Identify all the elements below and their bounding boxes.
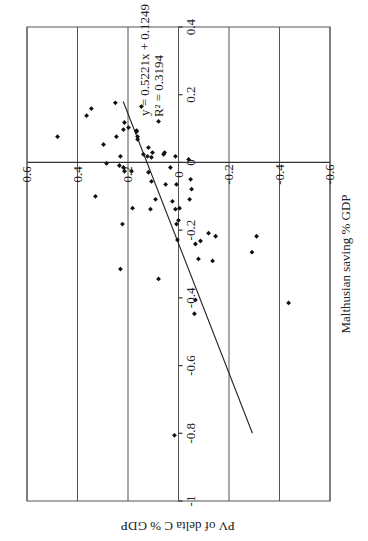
y-axis-title: PV of delta C % GDP — [121, 519, 235, 534]
data-point — [122, 120, 127, 125]
data-point — [156, 119, 161, 124]
x-tick-label-group: -0.4 — [183, 287, 198, 308]
data-point — [172, 433, 177, 438]
x-tick-label-group: 0.4 — [183, 18, 198, 35]
data-point — [126, 125, 131, 130]
trend-equation-group: y = 0.5221x + 0.1249 — [137, 4, 152, 116]
trendline — [123, 101, 252, 433]
data-point — [114, 134, 119, 139]
data-point — [250, 250, 255, 255]
y-tick-label-group: 0.6 — [19, 166, 34, 183]
trendline-path — [123, 101, 252, 433]
y-tick-label: 0 — [171, 171, 186, 178]
data-point — [120, 222, 125, 227]
y-tick-label: 0.2 — [120, 166, 135, 182]
data-point — [286, 301, 291, 306]
data-point — [104, 161, 109, 166]
x-tick-label: -0.6 — [183, 355, 198, 376]
x-tick-label: -0.2 — [183, 220, 198, 241]
r-squared-label: R² = 0.3194 — [151, 54, 166, 117]
y-tick-label-group: 0 — [171, 171, 186, 178]
data-point — [198, 239, 203, 244]
plot-grid — [27, 27, 330, 501]
data-point — [141, 152, 146, 157]
data-point — [149, 155, 154, 160]
y-tick-label-group: -0.4 — [272, 164, 287, 185]
y-tick-label: -0.6 — [322, 164, 337, 185]
data-point — [206, 231, 211, 236]
y-tick-label-group: 0.4 — [70, 166, 85, 183]
x-tick-label: -0.4 — [183, 287, 198, 308]
y-tick-label: -0.2 — [221, 164, 236, 185]
x-tick-label: 0.4 — [183, 18, 198, 35]
data-point — [193, 242, 198, 247]
data-point — [196, 257, 201, 262]
x-axis-title: Malthusian saving % GDP — [338, 194, 353, 333]
data-point — [168, 165, 173, 170]
x-tick-label-group: 0.2 — [183, 87, 198, 103]
y-axis-title-group: PV of delta C % GDP — [121, 519, 235, 534]
scatter-chart: 0.60.40.20-0.2-0.4-0.6-1-0.8-0.6-0.4-0.2… — [0, 0, 368, 541]
data-point — [89, 106, 94, 111]
data-point — [189, 187, 194, 192]
x-tick-label: -0.8 — [183, 423, 198, 444]
data-point — [156, 276, 161, 281]
data-point — [130, 206, 135, 211]
data-point — [188, 177, 193, 182]
y-tick-label: 0.6 — [19, 166, 34, 183]
x-tick-label: 0.2 — [183, 87, 198, 103]
data-point — [192, 311, 197, 316]
trend-equation: y = 0.5221x + 0.1249 — [137, 4, 152, 116]
y-tick-label-group: -0.2 — [221, 164, 236, 185]
data-point — [84, 113, 89, 118]
x-tick-label: -1 — [183, 496, 198, 507]
x-axis-title-group: Malthusian saving % GDP — [338, 194, 353, 333]
x-tick-label-group: -0.2 — [183, 220, 198, 241]
data-point — [146, 145, 151, 150]
data-point — [101, 142, 106, 147]
data-point — [135, 137, 140, 142]
data-point — [187, 197, 192, 202]
data-point — [163, 182, 168, 187]
data-point — [118, 154, 123, 159]
x-tick-label-group: -0.8 — [183, 423, 198, 444]
data-point — [170, 199, 175, 204]
data-point — [121, 127, 126, 132]
x-tick-label-group: -1 — [183, 496, 198, 507]
data-point — [254, 234, 259, 239]
data-point — [118, 267, 123, 272]
data-point — [150, 150, 155, 155]
y-tick-label-group: -0.6 — [322, 164, 337, 185]
data-point — [93, 194, 98, 199]
data-point — [148, 207, 153, 212]
data-point — [173, 207, 178, 212]
data-points — [55, 100, 291, 437]
data-point — [210, 259, 215, 264]
data-point — [55, 134, 60, 139]
data-point — [177, 206, 182, 211]
data-point — [113, 100, 118, 105]
y-tick-label: 0.4 — [70, 166, 85, 183]
data-point — [173, 154, 178, 159]
r-squared-group: R² = 0.3194 — [151, 54, 166, 117]
y-tick-label: -0.4 — [272, 164, 287, 185]
data-point — [153, 197, 158, 202]
y-tick-label-group: 0.2 — [120, 166, 135, 182]
data-point — [213, 234, 218, 239]
data-point — [175, 238, 180, 243]
x-tick-label-group: -0.6 — [183, 355, 198, 376]
